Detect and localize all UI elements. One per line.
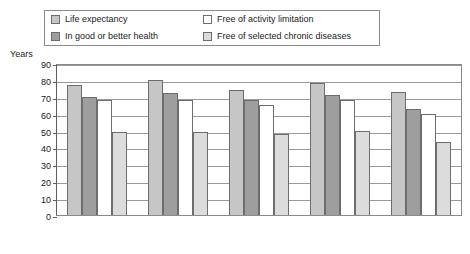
y-tick-label: 80 (41, 77, 51, 86)
bar (406, 109, 421, 215)
y-tick-label: 40 (41, 145, 51, 154)
legend-label-life-expectancy: Life expectancy (65, 15, 128, 24)
chart-plot-area: 0102030405060708090 TotalWomenMenWhiteBl… (56, 64, 462, 216)
bar (178, 100, 193, 215)
bar (67, 85, 82, 215)
y-tick-mark (53, 217, 57, 218)
chart-legend: Life expectancy Free of activity limitat… (44, 10, 380, 46)
legend-item-life-expectancy: Life expectancy (51, 15, 203, 24)
bar-group-men: Men (219, 65, 300, 215)
y-tick-label: 0 (46, 213, 51, 222)
bar (229, 90, 244, 215)
legend-item-free-of-activity-limitation: Free of activity limitation (203, 15, 379, 24)
y-axis-title: Years (10, 50, 33, 59)
bar (391, 92, 406, 215)
bar (274, 134, 289, 215)
bar-group-total: Total (57, 65, 138, 215)
bar-groups: TotalWomenMenWhiteBlack (57, 65, 461, 215)
bar-group-white: White (299, 65, 380, 215)
legend-label-free-of-activity-limitation: Free of activity limitation (217, 15, 314, 24)
y-tick-label: 70 (41, 94, 51, 103)
bar (436, 142, 451, 215)
bar (244, 100, 259, 215)
legend-label-free-of-selected-chronic-diseases: Free of selected chronic diseases (217, 32, 351, 41)
legend-item-free-of-selected-chronic-diseases: Free of selected chronic diseases (203, 32, 379, 41)
bar (421, 114, 436, 215)
legend-swatch-life-expectancy (51, 15, 60, 24)
bar (112, 132, 127, 215)
bar-group-women: Women (138, 65, 219, 215)
bar (82, 97, 97, 215)
bar (163, 93, 178, 215)
y-tick-label: 10 (41, 196, 51, 205)
legend-swatch-free-of-activity-limitation (203, 15, 212, 24)
y-tick-label: 30 (41, 162, 51, 171)
y-tick-label: 60 (41, 111, 51, 120)
y-tick-label: 50 (41, 128, 51, 137)
legend-swatch-in-good-or-better-health (51, 32, 60, 41)
bar (355, 131, 370, 215)
legend-item-in-good-or-better-health: In good or better health (51, 32, 203, 41)
bar (259, 105, 274, 215)
bar (310, 83, 325, 215)
y-tick-label: 20 (41, 179, 51, 188)
bar (193, 132, 208, 215)
legend-swatch-free-of-selected-chronic-diseases (203, 32, 212, 41)
bar (97, 100, 112, 215)
y-tick-label: 90 (41, 61, 51, 70)
bar (148, 80, 163, 215)
legend-label-in-good-or-better-health: In good or better health (65, 32, 158, 41)
bar (325, 95, 340, 215)
bar-group-black: Black (380, 65, 461, 215)
bar (340, 100, 355, 215)
